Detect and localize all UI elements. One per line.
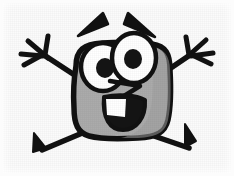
right-pupil	[124, 49, 142, 69]
cartoon-character-illustration	[0, 0, 234, 176]
illustration-canvas	[0, 0, 234, 176]
tooth	[106, 99, 126, 117]
left-pupil	[96, 58, 114, 78]
mouth-group	[104, 95, 145, 130]
